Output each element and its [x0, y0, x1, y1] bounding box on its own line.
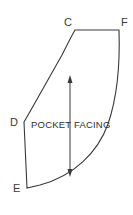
piece-label: POCKET FACING: [31, 119, 111, 130]
vertex-label-e: E: [13, 182, 20, 194]
pocket-facing-diagram: POCKET FACING C F D E: [0, 0, 133, 215]
pattern-outline: [24, 30, 119, 188]
vertex-label-d: D: [10, 116, 18, 128]
vertex-label-c: C: [64, 16, 72, 28]
vertex-label-f: F: [121, 16, 128, 28]
